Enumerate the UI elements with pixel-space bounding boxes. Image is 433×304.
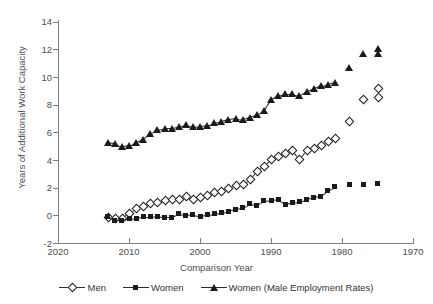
chart-legend: Men Women Women (Male Employment Rates) [0,282,433,293]
y-axis-tick-labels: 14 12 10 8 6 4 2 0 -2 [22,0,52,260]
data-point-women [219,210,224,215]
data-point-women [134,216,139,221]
data-point-women [198,214,203,219]
data-point-women [212,211,217,216]
data-point-women [176,211,181,216]
data-point-women [297,199,302,204]
legend-label: Men [87,282,105,293]
y-axis-tick [53,77,58,78]
data-point-women [105,214,110,219]
open-diamond-icon [59,283,85,292]
data-point-men [345,117,355,127]
y-tick-label: 12 [26,45,52,55]
x-axis-line [58,243,414,244]
data-point-women [318,194,323,199]
data-point-women-male-employment-rates [260,107,268,114]
data-point-men [373,84,383,94]
data-point-women [254,203,259,208]
y-axis-tick [53,160,58,161]
data-point-women-male-employment-rates [345,64,353,71]
data-point-women [347,182,352,187]
data-point-women [290,200,295,205]
y-axis-tick [53,49,58,50]
y-tick-label: 4 [26,156,52,166]
y-axis-tick [53,105,58,106]
data-point-women [375,181,380,186]
data-point-women [361,182,366,187]
y-axis-tick [53,132,58,133]
data-point-women [233,207,238,212]
y-axis-tick [53,215,58,216]
data-point-women [169,215,174,220]
x-axis-title: Comparison Year [0,262,433,273]
legend-label: Women [151,282,184,293]
x-tick-label: 1990 [251,247,291,257]
data-point-women [205,212,210,217]
data-point-women-male-employment-rates [374,45,382,52]
data-point-women [127,216,132,221]
filled-triangle-icon [201,283,227,292]
legend-item-women-male-employment-rates[interactable]: Women (Male Employment Rates) [201,282,374,293]
x-tick-label: 2020 [38,247,78,257]
y-tick-label: 2 [26,183,52,193]
x-axis-tick [342,238,343,243]
data-point-women [119,218,124,223]
x-axis-tick [58,238,59,243]
data-point-women [332,184,337,189]
data-point-women [155,214,160,219]
chart-figure: Years of Additional Work Capacity 14 12 … [0,0,433,304]
data-point-women [325,188,330,193]
data-point-women [162,215,167,220]
x-tick-label: 2000 [180,247,220,257]
y-axis-tick [53,22,58,23]
data-point-women [183,213,188,218]
x-axis-tick [129,238,130,243]
y-axis-tick [53,188,58,189]
data-point-women [141,214,146,219]
data-point-women [261,198,266,203]
data-point-women [269,198,274,203]
data-point-men [295,154,305,164]
data-point-women [190,212,195,217]
x-tick-label: 2010 [109,247,149,257]
y-tick-label: 14 [26,17,52,27]
data-point-women-male-employment-rates [359,50,367,57]
y-tick-label: 0 [26,211,52,221]
x-axis-tick [413,238,414,243]
data-point-women [112,218,117,223]
y-tick-label: 6 [26,128,52,138]
x-tick-label: 1980 [322,247,362,257]
y-axis-tick [53,243,58,244]
data-point-women [240,205,245,210]
legend-item-women[interactable]: Women [123,282,184,293]
data-point-women [276,197,281,202]
y-axis-line [58,20,59,244]
x-axis-tick [271,238,272,243]
filled-square-icon [123,283,149,292]
data-point-women [148,214,153,219]
data-point-women [311,195,316,200]
data-point-women [247,201,252,206]
data-point-women [226,209,231,214]
legend-label: Women (Male Employment Rates) [229,282,374,293]
y-tick-label: 10 [26,73,52,83]
data-point-women [304,197,309,202]
data-point-women [283,202,288,207]
data-point-women-male-employment-rates [331,79,339,86]
x-tick-label: 1970 [393,247,433,257]
x-axis-tick [200,238,201,243]
data-point-men [359,95,369,105]
legend-item-men[interactable]: Men [59,282,105,293]
y-tick-label: 8 [26,100,52,110]
